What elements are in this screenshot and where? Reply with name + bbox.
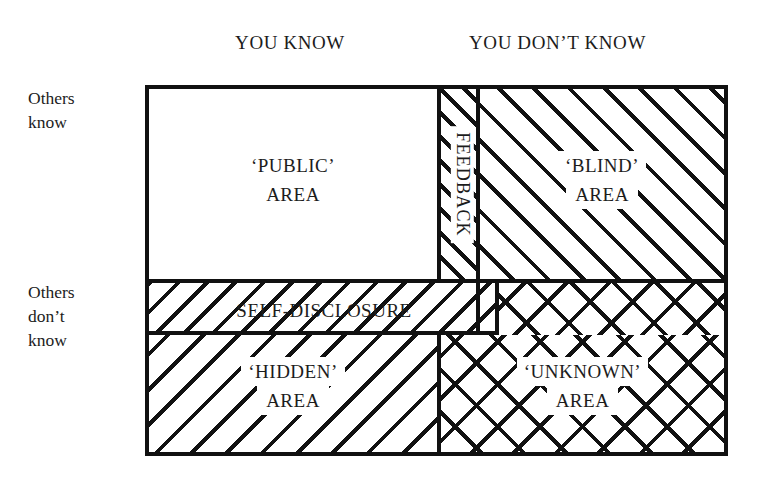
column-header-you-know: YOU KNOW [190,32,390,54]
band-feedback-label: FEEDBACK [451,126,474,243]
quadrant-hidden-label: ‘HIDDEN’ AREA [149,357,437,415]
band-feedback: FEEDBACK [437,89,480,279]
divider-horizontal-middle [149,279,724,283]
quadrant-unknown-line2: AREA [547,386,619,415]
column-header-you-dont-know: YOU DON’T KNOW [445,32,670,54]
window-frame: ‘PUBLIC’ AREA FEEDBACK ‘BLIND’ AREA SELF… [145,85,728,456]
quadrant-hidden: ‘HIDDEN’ AREA [149,335,437,452]
row-label-others-dont-know-line3: know [28,328,75,352]
row-label-others-know: Others know [28,86,75,134]
quadrant-blind-line2: AREA [566,180,638,209]
quadrant-public-line2: AREA [257,180,329,209]
quadrant-blind-label: ‘BLIND’ AREA [480,151,724,209]
quadrant-unknown-label: ‘UNKNOWN’ AREA [441,357,724,415]
row-label-others-know-line2: know [28,110,75,134]
quadrant-unknown: ‘UNKNOWN’ AREA [441,335,724,452]
quadrant-public-line1: ‘PUBLIC’ [244,151,342,180]
quadrant-public-label: ‘PUBLIC’ AREA [149,151,437,209]
quadrant-blind-line1: ‘BLIND’ [558,151,646,180]
johari-window-diagram: YOU KNOW YOU DON’T KNOW Others know Othe… [0,0,771,501]
row-label-others-dont-know-line2: don’t [28,304,75,328]
divider-self-disclosure-bottom [149,331,499,335]
band-self-disclosure-label-text: SELF-DISCLOSURE [226,300,421,321]
quadrant-hidden-line1: ‘HIDDEN’ [241,357,344,386]
unknown-upper-strip [499,279,724,335]
hatch-unknown-upper-icon [499,279,724,335]
quadrant-unknown-line1: ‘UNKNOWN’ [517,357,648,386]
row-label-others-know-line1: Others [28,86,75,110]
quadrant-public: ‘PUBLIC’ AREA [149,89,437,279]
row-label-others-dont-know: Others don’t know [28,280,75,352]
row-label-others-dont-know-line1: Others [28,280,75,304]
quadrant-hidden-line2: AREA [257,386,329,415]
quadrant-blind: ‘BLIND’ AREA [480,89,724,279]
band-feedback-label-wrap: FEEDBACK [441,89,480,279]
band-self-disclosure-label: SELF-DISCLOSURE [149,300,499,322]
